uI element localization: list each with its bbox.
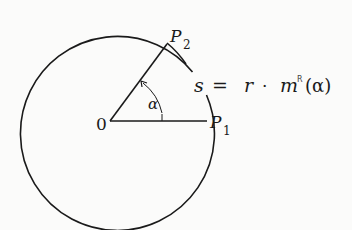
formula-argument: (α) (305, 75, 331, 96)
arc-length-formula: s = r · m R (α) (194, 74, 331, 96)
formula-m: m (280, 74, 298, 96)
formula-superscript: R (297, 75, 303, 84)
point-p1-label: P 1 (209, 112, 231, 138)
circle-outline (20, 36, 214, 230)
center-label: 0 (96, 114, 107, 134)
circle-diagram: 0 α P 2 P 1 s = r · m R (α) (0, 0, 352, 230)
p2-letter: P (169, 26, 182, 46)
angle-label: α (148, 95, 158, 113)
formula-r: r (244, 74, 255, 96)
formula-dot: · (262, 76, 267, 96)
p1-letter: P (209, 112, 222, 132)
radius-op2 (110, 44, 167, 121)
p2-subscript: 2 (183, 38, 191, 52)
formula-equals: = (212, 74, 228, 96)
formula-s: s (194, 74, 204, 96)
p1-subscript: 1 (223, 124, 231, 138)
